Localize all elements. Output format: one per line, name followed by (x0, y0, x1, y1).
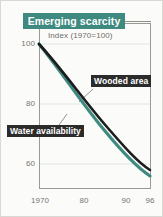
title-connector-rule (125, 21, 151, 22)
xtick-label-1970: 1970 (25, 196, 55, 205)
ytick-label-100: 100 (9, 39, 35, 48)
ytick-label-80: 80 (9, 99, 35, 108)
chart-subtitle: Index (1970=100) (48, 31, 113, 40)
series-callout-water-availability: Water availability (7, 125, 84, 137)
xtick-label-80: 80 (71, 196, 97, 205)
chart-figure: Emerging scarcity Index (1970=100) 100 8 (0, 0, 163, 217)
chart-title: Emerging scarcity (28, 16, 121, 27)
ytick-label-60: 60 (9, 159, 35, 168)
series-line-wooded-area (39, 44, 150, 170)
series-callout-wooded-area: Wooded area (91, 75, 151, 87)
xtick-label-90: 90 (115, 196, 137, 205)
xtick-label-96: 96 (139, 196, 161, 205)
chart-title-banner: Emerging scarcity (23, 13, 125, 29)
